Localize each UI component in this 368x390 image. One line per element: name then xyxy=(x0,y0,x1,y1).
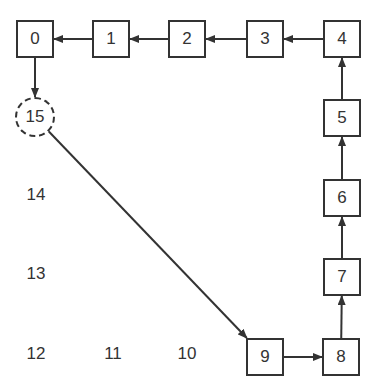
edge-arrow-8-to-7 xyxy=(341,296,342,338)
node-15-dashed-circle: 15 xyxy=(15,97,55,137)
node-label: 5 xyxy=(337,108,346,128)
free-label-14: 14 xyxy=(27,185,46,205)
free-label-13: 13 xyxy=(27,264,46,284)
free-label-11: 11 xyxy=(104,344,122,364)
diagram-canvas: 0 1 2 3 4 5 6 7 8 9 15 14 13 12 11 10 xyxy=(0,0,368,390)
edges-layer xyxy=(0,0,368,390)
node-label: 9 xyxy=(260,347,269,367)
node-label: 6 xyxy=(337,188,346,208)
node-label: 1 xyxy=(106,29,115,49)
free-label-10: 10 xyxy=(178,344,197,364)
node-9: 9 xyxy=(246,338,284,376)
node-label: 0 xyxy=(30,29,39,49)
node-5: 5 xyxy=(323,99,361,137)
node-label: 2 xyxy=(182,29,191,49)
node-0: 0 xyxy=(16,20,54,58)
node-2: 2 xyxy=(168,20,206,58)
node-6: 6 xyxy=(323,179,361,217)
node-label: 4 xyxy=(337,29,346,49)
node-label: 8 xyxy=(336,347,345,367)
node-3: 3 xyxy=(246,20,284,58)
edge-arrow-15-to-9 xyxy=(49,131,247,338)
node-4: 4 xyxy=(323,20,361,58)
node-label: 15 xyxy=(26,107,45,127)
node-label: 3 xyxy=(260,29,269,49)
free-label-12: 12 xyxy=(27,344,46,364)
node-8: 8 xyxy=(322,338,360,376)
node-1: 1 xyxy=(92,20,130,58)
node-label: 7 xyxy=(337,267,346,287)
node-7: 7 xyxy=(323,258,361,296)
